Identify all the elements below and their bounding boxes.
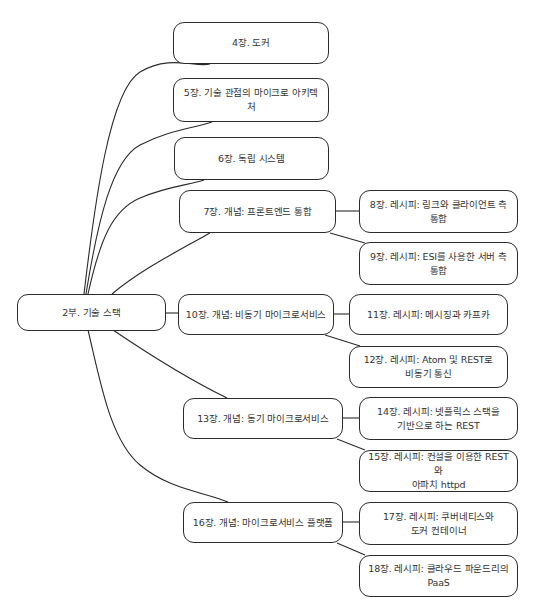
node-ch17-kubernetes-docker[interactable]: 17장. 레시피: 쿠버네티스와 도커 컨테이너 [359,502,518,545]
node-label: 4장. 도커 [232,36,270,50]
node-ch8-links-client-integration[interactable]: 8장. 레시피: 링크와 클라이언트 측 통합 [359,190,518,233]
link-n10-n12 [325,335,360,346]
node-label: 11장. 레시피: 메시징과 카프카 [367,308,490,322]
node-label: 7장. 개념: 프론트엔드 통합 [203,205,311,219]
node-ch11-messaging-kafka[interactable]: 11장. 레시피: 메시징과 카프카 [349,294,508,335]
link-n13-n15 [337,439,365,450]
node-ch15-consul-httpd[interactable]: 15장. 레시피: 컨설을 이용한 REST와 아파치 httpd [359,450,518,492]
node-ch4-docker[interactable]: 4장. 도커 [173,22,329,64]
node-root-part2-tech-stack[interactable]: 2부. 기술 스택 [17,294,166,331]
node-label: 15장. 레시피: 컨설을 이용한 REST와 아파치 httpd [366,450,511,492]
node-label: 5장. 기술 관점의 마이크로 아키텍처 [180,86,322,114]
node-label: 13장. 개념: 동기 마이크로서비스 [197,412,329,426]
link-root-n13 [113,330,227,398]
node-label: 10장. 개념: 비동기 마이크로서비스 [186,308,326,322]
node-label: 12장. 레시피: Atom 및 REST로 비동기 통신 [364,353,494,381]
node-ch16-microservice-platforms[interactable]: 16장. 개념: 마이크로서비스 플랫폼 [183,502,343,543]
node-ch13-sync-microservices[interactable]: 13장. 개념: 동기 마이크로서비스 [183,398,343,439]
node-ch5-micro-architecture[interactable]: 5장. 기술 관점의 마이크로 아키텍처 [173,78,329,122]
node-ch9-esi-server-integration[interactable]: 9장. 레시피: ESI를 사용한 서버 측 통합 [359,242,518,285]
node-label: 6장. 독립 시스템 [218,152,285,166]
mind-map-canvas: 2부. 기술 스택 4장. 도커 5장. 기술 관점의 마이크로 아키텍처 6장… [0,0,539,612]
node-ch18-cloud-foundry-paas[interactable]: 18장. 레시피: 클라우드 파운드리의 PaaS [359,555,518,597]
node-label: 14장. 레시피: 넷플릭스 스택을 기반으로 하는 REST [377,405,500,433]
node-ch6-self-contained-systems[interactable]: 6장. 독립 시스템 [174,137,329,180]
node-label: 8장. 레시피: 링크와 클라이언트 측 통합 [366,198,511,226]
node-label: 2부. 기술 스택 [62,306,120,320]
node-label: 9장. 레시피: ESI를 사용한 서버 측 통합 [366,250,511,278]
node-ch7-frontend-integration[interactable]: 7장. 개념: 프론트엔드 통합 [179,190,336,233]
node-label: 17장. 레시피: 쿠버네티스와 도커 컨테이너 [383,510,494,538]
node-label: 18장. 레시피: 클라우드 파운드리의 PaaS [368,562,508,590]
link-root-n7 [112,233,210,294]
link-n7-n9 [330,233,365,243]
node-ch10-async-microservices[interactable]: 10장. 개념: 비동기 마이크로서비스 [178,294,334,335]
node-ch14-netflix-rest[interactable]: 14장. 레시피: 넷플릭스 스택을 기반으로 하는 REST [359,397,518,440]
node-ch12-atom-rest[interactable]: 12장. 레시피: Atom 및 REST로 비동기 통신 [349,346,508,388]
link-n16-n18 [337,543,365,555]
node-label: 16장. 개념: 마이크로서비스 플랫폼 [193,516,333,530]
